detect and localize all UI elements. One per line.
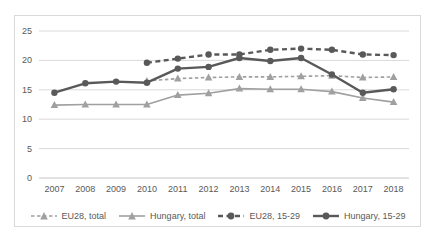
data-point-marker: [205, 64, 211, 70]
legend-circle-marker: [323, 213, 330, 220]
data-point-marker: [236, 73, 244, 80]
x-axis-label: 2013: [229, 184, 249, 194]
x-axis-label: 2017: [353, 184, 373, 194]
data-point-marker: [298, 45, 304, 51]
data-point-marker: [82, 80, 88, 86]
y-axis-label: 15: [22, 85, 32, 95]
x-axis-label: 2009: [106, 184, 126, 194]
x-axis-label: 2015: [291, 184, 311, 194]
legend-item-eu28-total: EU28, total: [30, 210, 107, 222]
legend-label-eu28-total: EU28, total: [62, 211, 107, 221]
data-point-marker: [144, 60, 150, 66]
x-axis-label: 2008: [75, 184, 95, 194]
data-point-marker: [175, 65, 181, 71]
y-axis-label: 0: [27, 173, 32, 183]
legend-circle-marker: [228, 213, 235, 220]
data-point-marker: [205, 74, 213, 81]
y-axis-label: 20: [22, 55, 32, 65]
legend-item-hungary-total: Hungary, total: [118, 210, 205, 222]
x-axis-label: 2016: [322, 184, 342, 194]
data-point-marker: [51, 90, 57, 96]
chart-container: 0510152025200720082009201020112012201320…: [14, 15, 421, 227]
legend-label-hungary-total: Hungary, total: [150, 211, 205, 221]
legend-label-eu28-15-29: EU28, 15-29: [249, 211, 300, 221]
legend-marker-hungary-total: [118, 210, 146, 222]
data-point-marker: [267, 58, 273, 64]
data-point-marker: [113, 78, 119, 84]
data-point-marker: [360, 90, 366, 96]
x-axis-label: 2012: [199, 184, 219, 194]
data-point-marker: [175, 55, 181, 61]
x-axis-label: 2014: [260, 184, 280, 194]
data-point-marker: [329, 47, 335, 53]
legend-label-hungary-15-29: Hungary, 15-29: [344, 211, 405, 221]
y-axis-label: 25: [22, 26, 32, 36]
line-chart: 0510152025200720082009201020112012201320…: [15, 16, 420, 208]
data-point-marker: [205, 51, 211, 57]
x-axis-label: 2010: [137, 184, 157, 194]
x-axis-label: 2011: [168, 184, 187, 194]
data-point-marker: [144, 80, 150, 86]
data-point-marker: [174, 75, 182, 82]
y-axis-label: 5: [27, 144, 32, 154]
legend-marker-hungary-15-29: [312, 210, 340, 222]
legend-item-eu28-15-29: EU28, 15-29: [217, 210, 300, 222]
data-point-marker: [390, 86, 396, 92]
data-point-marker: [329, 71, 335, 77]
data-point-marker: [390, 73, 398, 80]
legend-marker-eu28-15-29: [217, 210, 245, 222]
data-point-marker: [267, 47, 273, 53]
series-line: [54, 58, 393, 93]
chart-legend: EU28, total Hungary, total EU28, 15-29 H…: [15, 210, 420, 222]
data-point-marker: [298, 55, 304, 61]
data-point-marker: [360, 51, 366, 57]
y-axis-label: 10: [22, 114, 32, 124]
legend-triangle-marker: [40, 212, 48, 219]
legend-item-hungary-15-29: Hungary, 15-29: [312, 210, 405, 222]
data-point-marker: [390, 52, 396, 58]
data-point-marker: [236, 55, 242, 61]
legend-marker-eu28-total: [30, 210, 58, 222]
x-axis-label: 2007: [44, 184, 64, 194]
x-axis-label: 2018: [384, 184, 404, 194]
series-line: [54, 89, 393, 106]
